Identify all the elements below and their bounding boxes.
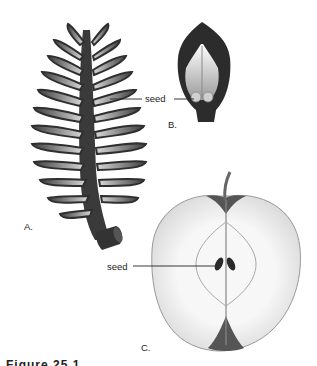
cone-scale-with-seeds bbox=[178, 22, 231, 122]
panel-label-c: C. bbox=[141, 343, 151, 353]
panel-label-b: B. bbox=[168, 120, 177, 130]
pine-cone-section bbox=[32, 24, 146, 250]
figure-caption: Figure 25.1 bbox=[6, 358, 80, 366]
figure-illustration bbox=[0, 0, 317, 366]
seed-label-a: seed bbox=[145, 94, 166, 104]
seed-label-c: seed bbox=[107, 262, 128, 272]
apple-cross-section bbox=[152, 172, 301, 351]
panel-label-a: A. bbox=[24, 222, 33, 232]
